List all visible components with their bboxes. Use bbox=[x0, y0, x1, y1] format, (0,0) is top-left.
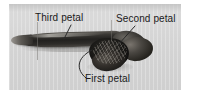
specimen-photograph bbox=[9, 4, 181, 90]
scale-tick-right bbox=[111, 20, 112, 42]
photograph-plate bbox=[9, 4, 181, 90]
figure-root: Third petal Second petal First petal bbox=[0, 0, 199, 93]
scale-tick-left bbox=[37, 22, 38, 60]
first-petal-fiber-texture bbox=[93, 40, 127, 64]
